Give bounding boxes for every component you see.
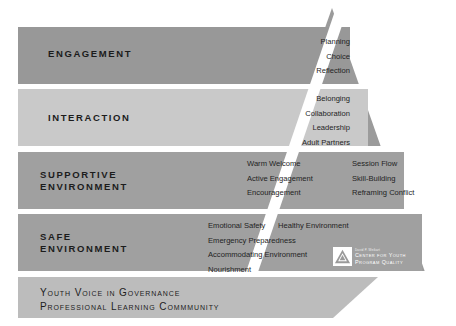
item-leadership: Leadership [272,121,350,136]
items-supportive-col2: Session Flow Skill-Building Reframing Co… [352,157,414,201]
pyramid-mark-icon [333,247,352,266]
items-safe-col2: Healthy Environment [278,219,349,234]
item-emergency-preparedness: Emergency Preparedness [208,234,307,249]
gap-top [0,0,18,326]
item-nourishment: Nourishment [208,263,307,278]
item-session-flow: Session Flow [352,157,414,172]
items-interaction: Belonging Collaboration Leadership Adult… [272,92,350,150]
logo-line-2: Program Quality [355,259,406,265]
items-engagement: Planning Choice Reflection [288,35,350,79]
item-choice: Choice [288,50,350,65]
pyramid-diagram: ENGAGEMENT INTERACTION SUPPORTIVE ENVIRO… [0,0,456,326]
item-adult-partners: Adult Partners [272,136,350,151]
item-collaboration: Collaboration [272,107,350,122]
gap-3 [0,209,456,214]
item-planning: Planning [288,35,350,50]
item-warm-welcome: Warm Welcome [247,157,313,172]
items-supportive-col1: Warm Welcome Active Engagement Encourage… [247,157,313,201]
item-encouragement: Encouragement [247,186,313,201]
item-active-engagement: Active Engagement [247,172,313,187]
gap-2 [0,146,456,152]
band-supportive-shape [18,152,404,209]
organization-logo: David P. Weikart Center for Youth Progra… [333,247,406,266]
item-skill-building: Skill-Building [352,172,414,187]
item-accommodating-environment: Accommodating Environment [208,248,307,263]
item-belonging: Belonging [272,92,350,107]
item-reframing-conflict: Reframing Conflict [352,186,414,201]
band-label-foundation: Youth Voice in Governance Professional L… [40,286,219,313]
logo-wordmark: David P. Weikart Center for Youth Progra… [355,248,406,265]
item-reflection: Reflection [288,64,350,79]
item-healthy-environment: Healthy Environment [278,219,349,234]
gap-1 [0,84,456,89]
